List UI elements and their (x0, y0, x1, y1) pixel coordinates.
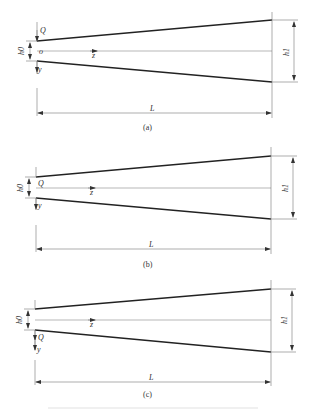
beam-top-edge (37, 20, 272, 41)
load-label: Q (40, 26, 46, 35)
figure-caption-faint (48, 407, 258, 409)
beam-bottom-edge (37, 61, 272, 82)
length-label: L (149, 104, 155, 113)
panel-c: Q y z h0 h1 L (c) (15, 280, 296, 399)
origin-label: o (39, 47, 43, 56)
beam-top-edge (35, 289, 271, 309)
panel-caption: (c) (143, 390, 152, 399)
h0-label: h0 (16, 184, 25, 192)
tapered-beam-figure: Q y o z h0 h1 L (a) Q y z (0, 0, 311, 412)
load-label: Q (38, 179, 44, 188)
load-label: Q (38, 333, 44, 342)
h1-label: h1 (281, 184, 290, 192)
panel-a: Q y o z h0 h1 L (a) (17, 12, 298, 132)
z-axis-label: z (89, 188, 94, 197)
beam-bottom-edge (36, 198, 271, 219)
beam-bottom-edge (35, 330, 271, 352)
length-label: L (148, 240, 154, 249)
panel-caption: (a) (143, 123, 152, 132)
y-axis-label: y (37, 65, 42, 74)
z-axis-label: z (89, 320, 94, 329)
panel-b: Q y z h0 h1 L (b) (16, 147, 297, 269)
h0-label: h0 (17, 47, 26, 55)
y-axis-label: y (36, 345, 41, 354)
z-axis-label: z (91, 51, 96, 60)
length-label: L (148, 373, 154, 382)
beam-top-edge (36, 156, 271, 177)
panel-caption: (b) (143, 260, 153, 269)
h1-label: h1 (282, 48, 291, 56)
y-axis-label: y (37, 201, 42, 210)
h0-label: h0 (15, 316, 24, 324)
h1-label: h1 (280, 316, 289, 324)
